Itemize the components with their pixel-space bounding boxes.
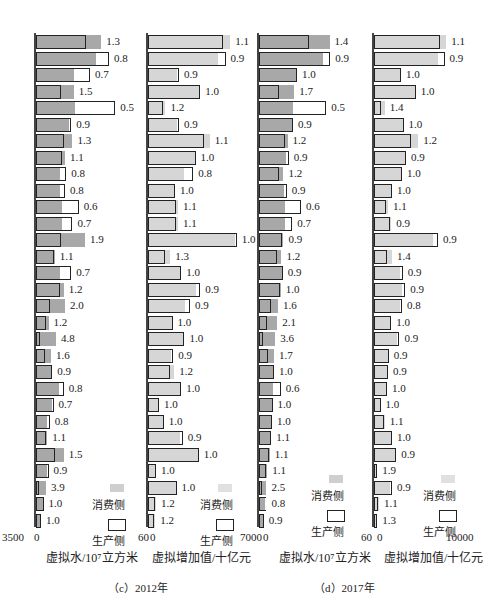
ratio-label: 1.0 <box>277 414 291 428</box>
ratio-label: 1.4 <box>390 100 404 114</box>
production-bar <box>374 464 377 478</box>
production-excess <box>235 234 236 246</box>
production-excess <box>74 69 89 81</box>
ratio-label: 0.8 <box>114 51 128 65</box>
ratio-label: 1.0 <box>242 232 256 246</box>
panel-c-water: 1.30.80.71.50.50.91.31.10.80.80.60.71.91… <box>34 33 142 527</box>
ratio-label: 1.0 <box>169 414 183 428</box>
production-bar <box>148 35 223 49</box>
legend-swatch-production <box>327 510 345 522</box>
production-excess <box>402 284 404 296</box>
ratio-label: 1.0 <box>182 480 196 494</box>
production-bar <box>374 85 416 99</box>
ratio-label: 1.1 <box>384 496 398 510</box>
production-excess <box>69 119 71 131</box>
ratio-label: 1.0 <box>409 117 423 131</box>
production-bar <box>374 514 377 528</box>
production-bar <box>148 398 159 412</box>
production-bar <box>259 481 262 495</box>
production-bar <box>148 464 156 478</box>
ratio-label: 1.1 <box>70 150 84 164</box>
production-bar <box>148 85 200 99</box>
production-bar <box>259 167 279 181</box>
production-excess <box>323 53 329 65</box>
production-bar <box>374 167 402 181</box>
legend-swatch-consumption <box>110 484 124 492</box>
legend-label-consumption: 消费侧 <box>423 487 456 503</box>
ratio-label: 1.2 <box>179 364 193 378</box>
production-excess <box>180 432 182 444</box>
ratio-label: 0.6 <box>286 381 300 395</box>
production-excess <box>286 152 288 164</box>
caption-c: （c）2012年 <box>108 579 168 595</box>
production-bar <box>148 68 179 82</box>
ratio-label: 1.0 <box>278 397 292 411</box>
production-bar <box>374 101 381 115</box>
ratio-label: 0.9 <box>54 463 68 477</box>
ratio-label: 1.1 <box>275 447 289 461</box>
production-bar <box>36 431 46 445</box>
production-bar <box>148 233 237 247</box>
production-bar <box>36 299 50 313</box>
caption-d: （d）2017年 <box>314 579 375 595</box>
ratio-label: 1.0 <box>279 364 293 378</box>
ratio-label: 1.2 <box>69 282 83 296</box>
ratio-label: 1.7 <box>279 348 293 362</box>
ratio-label: 1.1 <box>451 34 465 48</box>
production-bar <box>374 184 392 198</box>
ratio-label: 1.0 <box>180 183 194 197</box>
production-bar <box>259 250 277 264</box>
ratio-label: 0.9 <box>288 265 302 279</box>
production-bar <box>259 151 289 165</box>
ratio-label: 1.5 <box>69 447 83 461</box>
production-bar <box>148 316 173 330</box>
legend-d-value: 消费侧 生产侧 <box>419 475 479 521</box>
ratio-label: 1.9 <box>90 232 104 246</box>
tick-label-c-water-zero: 0 <box>34 531 40 543</box>
ratio-label: 1.0 <box>397 430 411 444</box>
production-excess <box>171 350 172 362</box>
production-bar <box>148 415 164 429</box>
ratio-label: 1.1 <box>183 216 197 230</box>
production-bar <box>374 217 390 231</box>
production-excess <box>75 102 114 114</box>
production-bar <box>374 481 392 495</box>
ratio-label: 1.4 <box>397 249 411 263</box>
ratio-label: 1.0 <box>186 265 200 279</box>
ratio-label: 1.1 <box>276 430 290 444</box>
production-excess <box>60 185 64 197</box>
ratio-label: 0.8 <box>198 166 212 180</box>
production-bar <box>374 365 388 379</box>
ratio-label: 0.9 <box>188 430 202 444</box>
legend-label-consumption: 消费侧 <box>311 487 344 503</box>
ratio-label: 0.9 <box>408 265 422 279</box>
production-bar <box>148 349 173 363</box>
production-bar <box>36 101 115 115</box>
production-bar <box>259 85 279 99</box>
production-excess <box>273 383 280 395</box>
production-bar <box>36 184 65 198</box>
ratio-label: 3.9 <box>51 480 65 494</box>
production-bar <box>374 118 404 132</box>
ratio-label: 1.3 <box>175 249 189 263</box>
ratio-label: 0.7 <box>76 265 90 279</box>
ratio-label: 0.7 <box>95 67 109 81</box>
ratio-label: 1.0 <box>406 67 420 81</box>
legend-label-consumption: 消费侧 <box>200 496 233 512</box>
production-bar <box>36 118 71 132</box>
ratio-label: 1.3 <box>382 513 396 527</box>
production-bar <box>36 217 72 231</box>
production-bar <box>36 448 55 462</box>
production-bar <box>259 415 272 429</box>
production-bar <box>374 332 399 346</box>
ratio-label: 1.2 <box>160 513 174 527</box>
ratio-label: 0.8 <box>407 298 421 312</box>
legend-swatch-production <box>439 510 457 522</box>
production-excess <box>438 53 444 65</box>
ratio-label: 0.9 <box>335 51 349 65</box>
ratio-label: 2.0 <box>70 298 84 312</box>
ratio-label: 0.5 <box>331 100 345 114</box>
ratio-label: 0.7 <box>297 216 311 230</box>
ratio-label: 1.0 <box>186 381 200 395</box>
production-bar <box>259 266 283 280</box>
